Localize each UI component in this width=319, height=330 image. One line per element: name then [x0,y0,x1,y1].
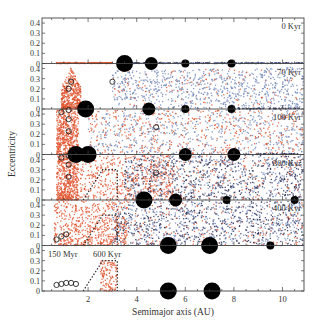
embryo-marker [59,281,64,286]
region-outlines [83,170,117,291]
panel-time-label: 0 Kyr [281,21,301,31]
x-tick-label: 4 [135,294,140,304]
y-tick-label: 0.2 [30,267,40,276]
y-tick-label: 0.2 [30,221,40,230]
y-tick-label: 0.3 [30,75,40,84]
panel-time-label: 70 Kyr [277,67,301,77]
y-tick-label: 0.4 [30,19,40,28]
panel-time-label-left: 150 Myr [48,249,78,259]
y-tick-label: 0.3 [30,29,40,38]
embryo-marker [66,117,71,122]
y-tick-label: 0.4 [30,247,40,256]
y-tick-label: 0.1 [30,186,40,195]
x-tick-label: 2 [86,294,90,304]
y-tick-label: 0.2 [30,39,40,48]
y-tick-label: 0.3 [30,120,40,129]
y-tick-label: 0.3 [30,166,40,175]
y-tick-label: 0.2 [30,130,40,139]
embryo-marker [54,282,59,287]
x-axis-label: Semimajor axis (AU) [132,307,214,318]
scatter-points [54,62,304,292]
y-tick-label: 0.1 [30,95,40,104]
y-axis-label: Eccentricity [7,131,17,177]
y-tick-label: 0 [36,287,40,296]
panel-time-label: 100 Kyr [273,112,301,122]
panel-time-label: 400 Kyr [273,203,301,213]
y-tick-label: 0.4 [30,65,40,74]
x-tick-label: 6 [183,294,187,304]
x-tick-label: 10 [278,294,287,304]
y-tick-label: 0.1 [30,49,40,58]
x-tick-label: 8 [232,294,236,304]
y-tick-label: 0.4 [30,201,40,210]
y-tick-label: 0.2 [30,176,40,185]
y-tick-label: 0.1 [30,231,40,240]
y-tick-label: 0.4 [30,156,40,165]
y-tick-label: 0.2 [30,85,40,94]
y-tick-label: 0.3 [30,211,40,220]
chart-figure: 00.10.20.30.400.10.20.30.400.10.20.30.40… [0,0,319,330]
y-tick-label: 0.3 [30,257,40,266]
panel-time-label: 300 Kyr [273,158,301,168]
y-tick-label: 0.1 [30,140,40,149]
panel-time-label-right: 600 Kyr [93,249,121,259]
y-tick-label: 0.1 [30,277,40,286]
y-tick-label: 0.4 [30,110,40,119]
embryo-marker [73,281,78,286]
